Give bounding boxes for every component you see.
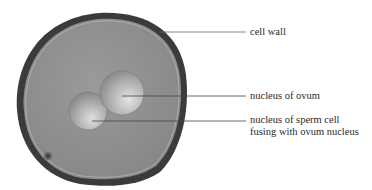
ovum-nucleus — [100, 71, 144, 115]
label-cell-wall: cell wall — [250, 26, 286, 38]
label-nucleus-of-ovum: nucleus of ovum — [250, 90, 320, 102]
granule-core — [46, 154, 50, 158]
label-nucleus-of-sperm-line2: fusing with ovum nucleus — [250, 126, 359, 138]
label-nucleus-of-sperm-line1: nucleus of sperm cell — [250, 114, 340, 126]
